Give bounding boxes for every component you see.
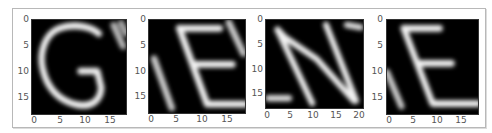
y-tick: 5 [247,39,263,49]
y-tick: 0 [130,14,146,24]
x-tick: 15 [328,110,344,120]
x-tick: 10 [429,115,445,125]
y-tick: 15 [247,88,263,98]
x-tick: 0 [259,110,275,120]
y-tick: 5 [130,40,146,50]
x-tick: 0 [143,114,159,124]
y-tick: 10 [247,64,263,74]
x-tick: 10 [194,114,210,124]
x-tick: 15 [102,115,118,125]
x-tick: 0 [381,115,397,125]
x-tick: 10 [305,110,321,120]
heatmap-image-g [31,19,127,115]
y-tick: 15 [13,92,29,102]
y-tick: 5 [13,40,29,50]
x-tick: 15 [453,115,469,125]
x-tick: 20 [351,110,367,120]
x-tick: 5 [405,115,421,125]
y-tick: 5 [367,40,383,50]
x-tick: 5 [282,110,298,120]
y-tick: 0 [13,14,29,24]
heatmap-image-n [265,19,364,109]
y-tick: 10 [367,66,383,76]
heatmap-image-e-1 [148,19,246,114]
y-tick: 15 [367,92,383,102]
y-tick: 10 [130,66,146,76]
y-tick: 0 [367,14,383,24]
x-tick: 0 [26,115,42,125]
y-tick: 10 [13,66,29,76]
x-tick: 15 [219,114,235,124]
x-tick: 5 [168,114,184,124]
heatmap-image-e-2 [386,19,479,115]
x-tick: 5 [52,115,68,125]
x-tick: 10 [77,115,93,125]
y-tick: 0 [247,14,263,24]
y-tick: 15 [130,91,146,101]
